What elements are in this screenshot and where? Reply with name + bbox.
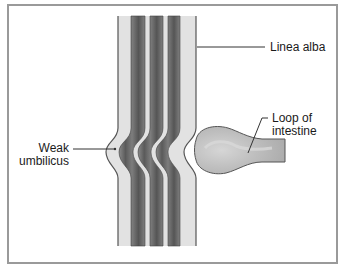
label-loop-line2: intestine: [272, 125, 317, 138]
abdominal-wall: [106, 16, 196, 246]
label-loop-of-intestine: Loop of intestine: [272, 112, 317, 138]
label-weak-umbilicus: Weak umbilicus: [19, 142, 69, 168]
label-weak-line2: umbilicus: [19, 155, 69, 168]
label-linea-alba: Linea alba: [270, 41, 325, 54]
